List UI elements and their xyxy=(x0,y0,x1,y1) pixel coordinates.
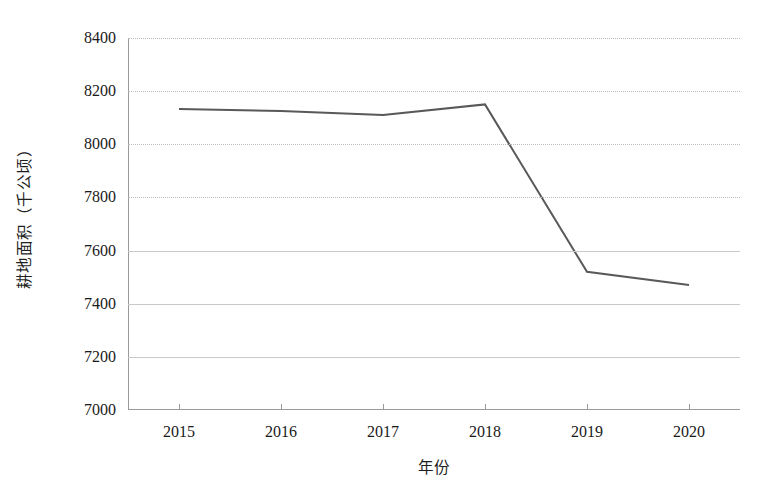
x-axis-tick-label: 2017 xyxy=(367,424,399,440)
gridline xyxy=(128,357,740,358)
plot-area xyxy=(128,38,740,410)
y-axis-tick-label: 8400 xyxy=(84,30,116,46)
gridline xyxy=(128,197,740,198)
series-line-cultivated-area xyxy=(179,104,689,285)
x-axis-tick-mark xyxy=(485,404,486,410)
y-axis-tick-label: 7800 xyxy=(84,189,116,205)
gridline xyxy=(128,251,740,252)
gridline xyxy=(128,144,740,145)
x-axis-tick-mark xyxy=(587,404,588,410)
x-axis-tick-label: 2015 xyxy=(163,424,195,440)
y-axis-tick-label: 7400 xyxy=(84,296,116,312)
gridline xyxy=(128,91,740,92)
y-axis-tick-label: 7000 xyxy=(84,402,116,418)
x-axis-tick-label: 2019 xyxy=(571,424,603,440)
x-axis-tick-label: 2018 xyxy=(469,424,501,440)
x-axis-title-label: 年份 xyxy=(418,459,451,476)
line-chart: 耕地面积（千公顷） 700072007400760078008000820084… xyxy=(0,0,766,502)
x-axis-tick-label: 2016 xyxy=(265,424,297,440)
y-axis-tick-label: 7600 xyxy=(84,243,116,259)
x-axis-title: 年份 xyxy=(128,455,740,477)
x-axis-tick-mark xyxy=(383,404,384,410)
y-axis-title: 耕地面积（千公顷） xyxy=(0,0,46,430)
x-axis-tick-mark xyxy=(281,404,282,410)
y-axis-title-label: 耕地面积（千公顷） xyxy=(12,141,34,290)
series-line-group xyxy=(128,38,740,410)
x-axis-tick-mark xyxy=(179,404,180,410)
y-axis-tick-label: 8200 xyxy=(84,83,116,99)
y-axis-tick-label: 8000 xyxy=(84,136,116,152)
y-axis-tick-labels: 70007200740076007800800082008400 xyxy=(52,38,122,410)
x-axis-tick-mark xyxy=(689,404,690,410)
gridline xyxy=(128,38,740,39)
y-axis-tick-label: 7200 xyxy=(84,349,116,365)
gridline xyxy=(128,304,740,305)
x-axis-tick-labels: 201520162017201820192020 xyxy=(128,418,740,450)
x-axis-tick-label: 2020 xyxy=(673,424,705,440)
